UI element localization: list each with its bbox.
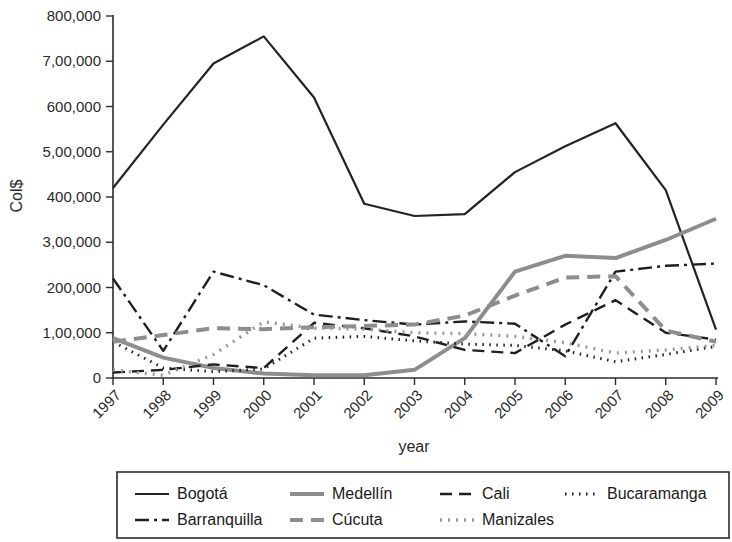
legend-item-manizales[interactable]: Manizales bbox=[440, 511, 554, 528]
x-tick-label: 1997 bbox=[89, 386, 125, 422]
x-tick-label: 2001 bbox=[290, 386, 326, 422]
legend-item-bucaramanga[interactable]: Bucaramanga bbox=[565, 485, 707, 502]
legend-label: Cali bbox=[482, 485, 510, 502]
legend-label: Cúcuta bbox=[332, 511, 383, 528]
legend-item-medellin[interactable]: Medellín bbox=[290, 485, 392, 502]
legend-label: Manizales bbox=[482, 511, 554, 528]
x-axis-title: year bbox=[398, 438, 430, 455]
y-tick-label: 600,000 bbox=[47, 98, 101, 115]
y-tick-label: 0 bbox=[93, 369, 101, 386]
x-tick-label: 2006 bbox=[541, 386, 577, 422]
legend-item-cali[interactable]: Cali bbox=[440, 485, 510, 502]
legend-item-bogota[interactable]: Bogotá bbox=[135, 485, 228, 502]
x-axis: 1997199819992000200120022003200420052006… bbox=[89, 378, 728, 422]
chart-canvas: 01,00,000200,0003,00,000400,0005,00,0006… bbox=[0, 0, 732, 542]
x-tick-label: 2009 bbox=[692, 386, 728, 422]
y-tick-label: 5,00,000 bbox=[43, 143, 101, 160]
series-line-cali bbox=[113, 300, 716, 372]
x-tick-label: 2004 bbox=[440, 386, 476, 422]
y-tick-label: 200,000 bbox=[47, 279, 101, 296]
legend-label: Bucaramanga bbox=[607, 485, 707, 502]
y-axis: 01,00,000200,0003,00,000400,0005,00,0006… bbox=[43, 7, 113, 386]
chart-legend: BogotáMedellínCaliBucaramangaBarranquill… bbox=[117, 472, 729, 538]
x-tick-label: 2003 bbox=[390, 386, 426, 422]
y-tick-label: 800,000 bbox=[47, 7, 101, 24]
y-axis-title: Col$ bbox=[8, 179, 25, 212]
legend-label: Bogotá bbox=[177, 485, 228, 502]
line-chart-figure: 01,00,000200,0003,00,000400,0005,00,0006… bbox=[0, 0, 732, 542]
x-tick-label: 2000 bbox=[239, 386, 275, 422]
legend-label: Barranquilla bbox=[177, 511, 262, 528]
y-tick-label: 7,00,000 bbox=[43, 52, 101, 69]
legend-item-cucuta[interactable]: Cúcuta bbox=[290, 511, 383, 528]
x-tick-label: 1998 bbox=[139, 386, 175, 422]
x-tick-label: 2002 bbox=[340, 386, 376, 422]
x-tick-label: 1999 bbox=[189, 386, 225, 422]
x-tick-label: 2007 bbox=[591, 386, 627, 422]
y-tick-label: 1,00,000 bbox=[43, 324, 101, 341]
y-tick-label: 400,000 bbox=[47, 188, 101, 205]
x-tick-label: 2008 bbox=[641, 386, 677, 422]
series-line-barranquilla bbox=[113, 264, 716, 357]
series-lines bbox=[113, 36, 716, 375]
legend-item-barranquilla[interactable]: Barranquilla bbox=[135, 511, 262, 528]
y-tick-label: 3,00,000 bbox=[43, 233, 101, 250]
x-tick-label: 2005 bbox=[491, 386, 527, 422]
legend-label: Medellín bbox=[332, 485, 392, 502]
